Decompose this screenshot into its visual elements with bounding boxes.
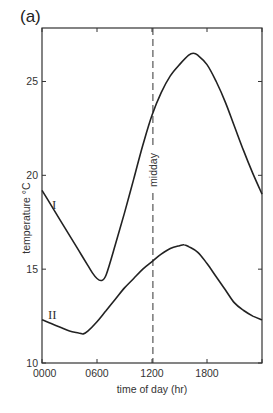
x-tick-label: 1200 [140, 367, 164, 379]
midday-label: midday [147, 152, 159, 187]
curve-label-ii: II [48, 307, 57, 322]
curve-label-i: I [52, 197, 56, 212]
y-tick-label: 10 [26, 357, 38, 369]
midday-annotation: midday [147, 28, 159, 363]
temperature-chart: 0000060012001800 10152025 midday III tim… [0, 0, 273, 413]
y-axis-title: temperature °C [20, 182, 32, 254]
y-tick-label: 20 [26, 169, 38, 181]
plot-frame [42, 28, 262, 363]
y-tick-label: 25 [26, 75, 38, 87]
data-curves: III [42, 53, 262, 334]
x-tick-label: 0600 [85, 367, 109, 379]
curve-ii [42, 245, 262, 334]
x-tick-label: 1800 [195, 367, 219, 379]
x-axis-ticks: 0000060012001800 [33, 28, 262, 379]
y-tick-label: 15 [26, 263, 38, 275]
plot-axes [42, 28, 262, 363]
x-axis-title: time of day (hr) [117, 383, 188, 395]
